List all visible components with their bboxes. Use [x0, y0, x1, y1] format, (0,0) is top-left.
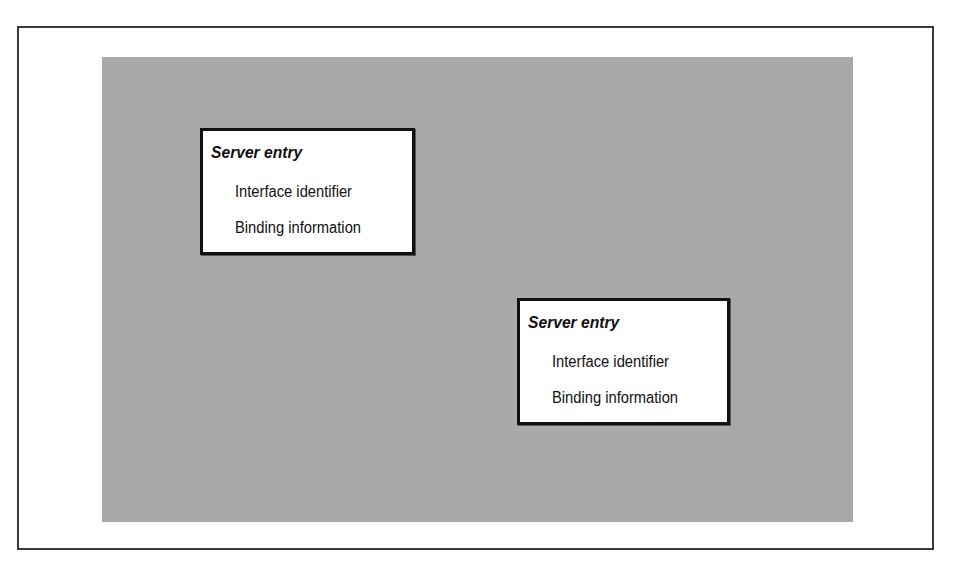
interface-identifier-field: Interface identifier	[235, 183, 352, 201]
namespace-panel	[102, 57, 853, 522]
binding-information-field: Binding information	[235, 219, 361, 237]
interface-identifier-field: Interface identifier	[552, 353, 669, 371]
server-entry-title: Server entry	[528, 313, 619, 333]
server-entry-box-1: Server entry Interface identifier Bindin…	[200, 128, 415, 255]
server-entry-title: Server entry	[211, 143, 302, 163]
server-entry-box-2: Server entry Interface identifier Bindin…	[517, 298, 730, 425]
binding-information-field: Binding information	[552, 389, 678, 407]
